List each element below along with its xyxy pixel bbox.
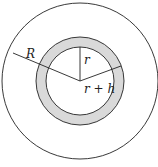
- concentric-circles-diagram: R r r + h: [0, 0, 158, 167]
- label-R: R: [25, 47, 35, 61]
- label-r: r: [84, 53, 91, 67]
- label-r-plus-h: r + h: [84, 82, 115, 96]
